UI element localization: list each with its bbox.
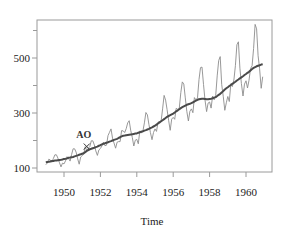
y-tick-label: 100 [14,162,31,174]
y-axis: 100300500 [14,31,38,175]
x-tick-label: 1956 [162,186,185,198]
x-axis: 195019521954195619581960 [53,172,258,198]
x-tick-label: 1950 [53,186,76,198]
annotation-label: AO [76,129,91,140]
plot-border [37,20,272,172]
observed-series-line [46,24,263,167]
x-tick-label: 1960 [235,186,258,198]
x-tick-label: 1954 [126,186,149,198]
x-tick-label: 1952 [89,186,111,198]
y-tick-label: 300 [14,107,31,119]
y-tick-label: 500 [14,52,31,64]
time-series-chart: 100300500 195019521954195619581960 AO Ti… [0,0,286,234]
x-tick-label: 1958 [199,186,222,198]
annotations: AO [76,129,91,150]
plot-frame [37,20,272,172]
x-axis-title: Time [141,215,164,227]
trend-series-line [46,64,263,162]
